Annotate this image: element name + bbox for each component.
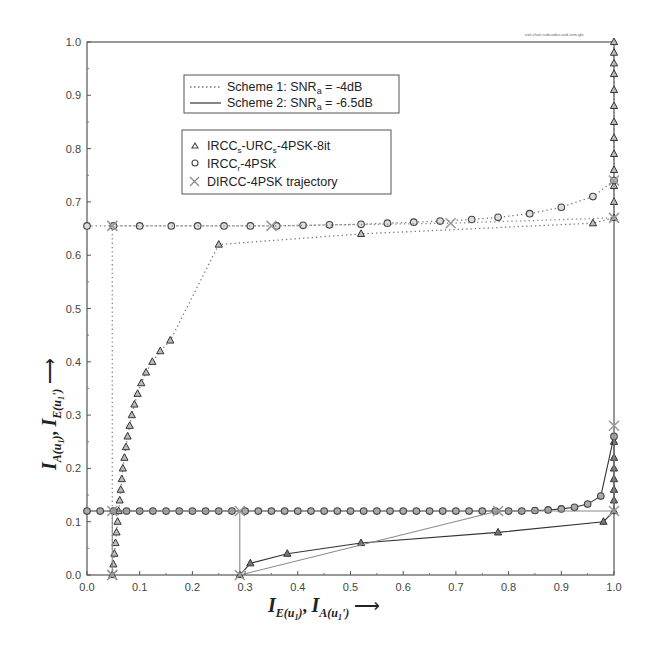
circle-marker [321, 508, 328, 515]
triangle-marker [610, 134, 617, 141]
circle-marker [598, 493, 605, 500]
legend-circle: IRCCr-4PSK [207, 157, 277, 173]
triangle-marker [113, 528, 120, 535]
circle-marker [255, 508, 262, 515]
y-tick-label: 0.0 [66, 569, 81, 581]
circle-marker [374, 508, 381, 515]
x-tick-label: 0.9 [554, 581, 569, 593]
circle-marker [308, 508, 315, 515]
triangle-marker [131, 400, 138, 407]
circle-marker [84, 508, 91, 515]
circle-marker [495, 214, 502, 221]
circle-marker [545, 507, 552, 514]
x-tick-label: 0.0 [79, 581, 94, 593]
legend-x: DIRCC-4PSK trajectory [207, 175, 338, 189]
y-tick-label: 0.2 [66, 462, 81, 474]
circle-marker [347, 508, 354, 515]
series-triangle-dotted [109, 38, 618, 578]
triangle-marker [116, 496, 123, 503]
legend-scheme-2: Scheme 2: SNRa = -6.5dB [227, 96, 373, 112]
circle-marker [295, 508, 302, 515]
circle-marker [426, 508, 433, 515]
triangle-marker [610, 102, 617, 109]
triangle-marker [142, 368, 149, 375]
legend-triangle: IRCCs-URCs-4PSK-8it [207, 139, 331, 155]
circle-marker [281, 508, 288, 515]
triangle-marker [118, 475, 125, 482]
triangle-marker [610, 38, 617, 45]
corner-note: exit-chart-subcodes-and-sum-glo [525, 32, 584, 37]
legend-line-styles: Scheme 1: SNRa = -4dB Scheme 2: SNRa = -… [184, 75, 399, 113]
y-tick-label: 0.3 [66, 409, 81, 421]
triangle-marker [610, 86, 617, 93]
x-tick-label: 0.5 [343, 581, 358, 593]
triangle-marker [119, 464, 126, 471]
x-tick-label: 0.2 [185, 581, 200, 593]
y-tick-label: 0.9 [66, 89, 81, 101]
triangle-marker [126, 422, 133, 429]
y-tick-label: 0.5 [66, 303, 81, 315]
circle-marker [410, 219, 417, 226]
circle-marker [384, 220, 391, 227]
triangle-marker [134, 390, 141, 397]
triangle-marker [610, 59, 617, 66]
y-tick-label: 0.7 [66, 196, 81, 208]
series-circle-solid [84, 433, 618, 514]
plot-frame [87, 42, 614, 575]
y-axis-label: IA(u1), IE(u1') ⟶ [38, 358, 66, 471]
circle-marker [590, 193, 597, 200]
triangle-marker [122, 443, 129, 450]
exit-chart: 0.00.10.20.30.40.50.60.70.80.91.00.00.10… [0, 0, 651, 655]
x-tick-label: 1.0 [606, 581, 621, 593]
triangle-marker [110, 560, 117, 567]
triangle-marker [215, 241, 222, 248]
circle-marker [466, 508, 473, 515]
svg-text:IE(u1), IA(u1') ⟶: IE(u1), IA(u1') ⟶ [267, 594, 380, 622]
triangle-marker [128, 411, 135, 418]
triangle-marker [610, 70, 617, 77]
x-tick-label: 0.3 [237, 581, 252, 593]
y-tick-label: 0.6 [66, 249, 81, 261]
triangle-marker [138, 379, 145, 386]
plot-area [87, 42, 614, 575]
circle-marker [571, 504, 578, 511]
triangle-marker [114, 518, 121, 525]
y-tick-label: 0.4 [66, 356, 81, 368]
triangle-marker [149, 358, 156, 365]
triangle-marker [610, 166, 617, 173]
circle-marker [360, 508, 367, 515]
triangle-marker [124, 432, 131, 439]
circle-marker [453, 508, 460, 515]
circle-marker [584, 501, 591, 508]
triangle-marker [117, 486, 124, 493]
y-tick-label: 0.1 [66, 516, 81, 528]
y-tick-label: 0.8 [66, 143, 81, 155]
triangle-marker [610, 118, 617, 125]
circle-marker [97, 508, 104, 515]
triangle-marker [167, 336, 174, 343]
x-tick-label: 0.6 [396, 581, 411, 593]
x-tick-label: 0.1 [132, 581, 147, 593]
circle-marker [413, 508, 420, 515]
y-tick-label: 1.0 [66, 36, 81, 48]
triangle-marker [157, 347, 164, 354]
svg-text:IA(u1), IE(u1') ⟶: IA(u1), IE(u1') ⟶ [38, 358, 66, 471]
circle-marker [437, 218, 444, 225]
circle-marker [558, 204, 565, 211]
series-x-solid [107, 421, 619, 580]
circle-marker [439, 508, 446, 515]
triangle-marker [610, 49, 617, 56]
x-axis-label: IE(u1), IA(u1') ⟶ [267, 594, 380, 622]
legend-scheme-1: Scheme 1: SNRa = -4dB [227, 80, 362, 96]
circle-marker [334, 508, 341, 515]
circle-marker [268, 508, 275, 515]
circle-marker [526, 210, 533, 217]
x-tick-label: 0.4 [290, 581, 305, 593]
triangle-marker [610, 150, 617, 157]
circle-marker [400, 508, 407, 515]
x-tick-label: 0.7 [448, 581, 463, 593]
circle-marker [84, 223, 91, 230]
circle-marker [168, 223, 175, 230]
legend-markers: IRCCs-URCs-4PSK-8it IRCCr-4PSK DIRCC-4PS… [182, 130, 391, 194]
triangle-marker [121, 454, 128, 461]
